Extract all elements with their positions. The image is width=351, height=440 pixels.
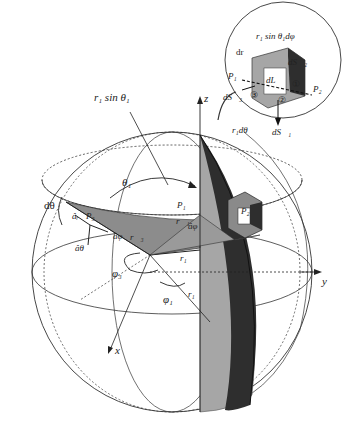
inset-dS3-label: dS⃗₃ [223, 93, 242, 102]
r-sin-theta-label: r₁ sin θ₁ [94, 92, 130, 103]
r1-label-upper: r₁ [180, 254, 187, 263]
inset-dL-label: dL⃗ [266, 76, 283, 85]
a-r-label: âᵣ [72, 212, 79, 221]
y-axis-label: y [322, 276, 327, 287]
p1-label: P₁ [177, 201, 186, 210]
theta1-label: θ₁ [122, 177, 131, 188]
inset-dS2-label: dS⃗₂ [288, 58, 307, 67]
inset-r-sin-dphi-label: r₁ sin θ₁dφ [256, 32, 295, 41]
r3-vector-label: r⃗₃ [130, 233, 144, 242]
a-phi-left-label: âφ [113, 232, 122, 241]
a-theta-label: âθ [75, 244, 84, 253]
r1-vector-label: r⃗₁ [176, 217, 190, 226]
x-axis-label: x [115, 345, 120, 356]
inset-p1-label: P₁ [228, 72, 237, 81]
r1-label-lower: r₁ [188, 290, 195, 299]
dtheta-label: dθ [44, 200, 55, 211]
z-axis-label: z [204, 93, 208, 104]
p3-label: P₃ [86, 212, 95, 221]
inset-face3: ③ [250, 91, 258, 100]
inset-r-dtheta-label: r₁dθ [232, 126, 248, 135]
inset-face1: ① [292, 80, 300, 89]
p2-label: P₂ [241, 207, 250, 216]
phi3-label: φ₃ [112, 268, 122, 279]
phi1-label: φ₁ [163, 294, 173, 305]
inset-dr-label: dr [236, 48, 244, 57]
inset-face2: ② [278, 96, 286, 105]
inset-dS1-label: dS⃗₁ [272, 128, 291, 137]
inset-p2-label: P₂ [313, 85, 322, 94]
